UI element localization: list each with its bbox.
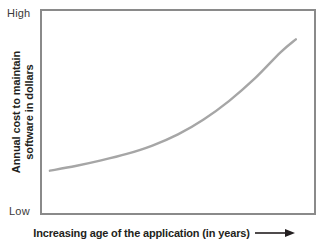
plot-area bbox=[40, 9, 316, 215]
y-axis-title: Annual cost to maintain software in doll… bbox=[8, 9, 38, 215]
y-axis-title-text: Annual cost to maintain software in doll… bbox=[10, 51, 36, 173]
y-axis-title-line-2: software in dollars bbox=[23, 51, 36, 173]
y-axis-max-label: High bbox=[7, 8, 30, 19]
x-axis-title-row: Increasing age of the application (in ye… bbox=[0, 223, 328, 243]
x-axis-title: Increasing age of the application (in ye… bbox=[33, 228, 250, 239]
maintenance-cost-chart: High Low Annual cost to maintain softwar… bbox=[0, 0, 328, 243]
cost-curve-line bbox=[50, 39, 296, 170]
y-axis-title-line-1: Annual cost to maintain bbox=[10, 51, 23, 173]
right-arrow-icon bbox=[255, 227, 295, 239]
y-axis-min-label: Low bbox=[9, 206, 30, 217]
curve-svg bbox=[42, 11, 314, 213]
